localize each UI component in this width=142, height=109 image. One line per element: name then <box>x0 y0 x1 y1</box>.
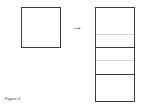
faint-divider-2 <box>96 60 134 61</box>
solid-divider-1 <box>95 47 135 48</box>
solid-divider-2 <box>95 74 135 75</box>
target-rectangle <box>95 7 135 102</box>
source-square <box>21 7 61 48</box>
faint-divider-1 <box>96 34 134 35</box>
right-arrow-icon: → <box>72 21 83 32</box>
figure-caption: Figure 6 <box>5 96 20 101</box>
